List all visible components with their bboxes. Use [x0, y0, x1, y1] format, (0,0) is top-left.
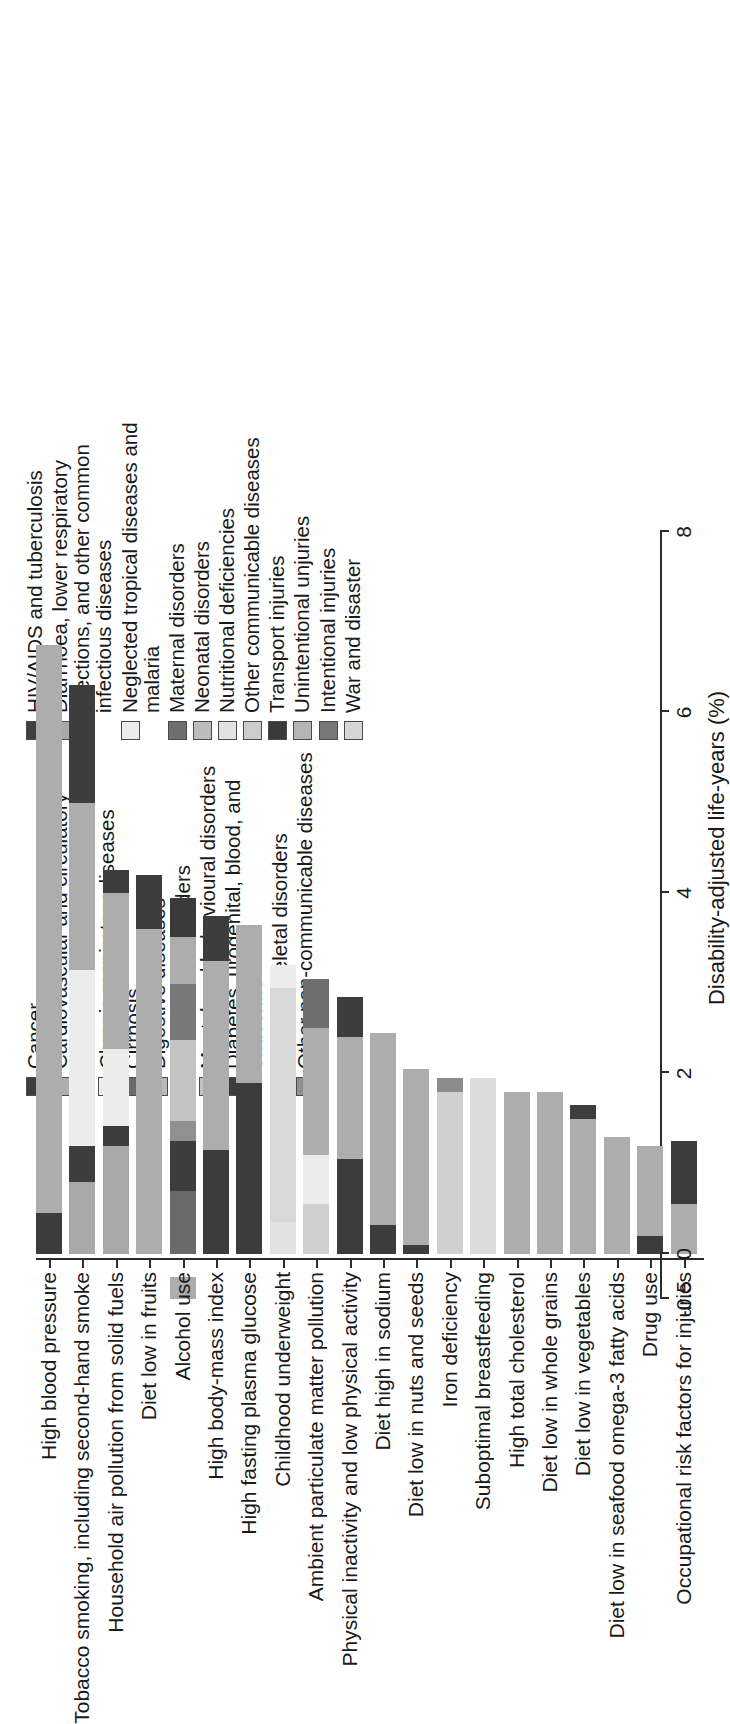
category-tick: [316, 1260, 318, 1268]
bar-segment: [303, 1155, 329, 1205]
bar-segment: [470, 1078, 496, 1254]
bar-segment: [203, 916, 229, 961]
bar-segment: [537, 1092, 563, 1254]
bar-segment: [303, 979, 329, 1029]
bar-segment: [370, 1225, 396, 1254]
bar-segment: [136, 875, 162, 929]
bar-segment: [570, 1119, 596, 1254]
category-label: Diet low in whole grains: [539, 1272, 560, 1493]
category-tick: [583, 1260, 585, 1268]
bar-segment: [403, 1069, 429, 1245]
bar-segment: [170, 937, 196, 984]
category-label: High body-mass index: [205, 1272, 226, 1480]
x-tick-label: 0: [672, 1248, 696, 1260]
category-label: Diet low in vegetables: [572, 1272, 593, 1476]
bar-segment: [236, 925, 262, 1083]
bar-segment: [170, 1040, 196, 1121]
bar-segment: [136, 929, 162, 1254]
x-tick: [660, 530, 669, 532]
bar-segment: [403, 1245, 429, 1254]
x-tick-label: 2: [672, 1068, 696, 1080]
bar-segment: [270, 965, 296, 988]
x-tick: [660, 711, 669, 713]
category-tick: [550, 1260, 552, 1268]
bar-segment: [303, 1204, 329, 1254]
category-tick: [82, 1260, 84, 1268]
bar-segment: [236, 1083, 262, 1254]
category-tick: [283, 1260, 285, 1268]
category-label: Drug use: [639, 1272, 660, 1357]
bar-segment: [671, 1141, 697, 1204]
x-tick: [660, 1297, 669, 1299]
category-label: Alcohol use: [172, 1272, 193, 1381]
bar-segment: [103, 1126, 129, 1146]
bar-segment: [504, 1092, 530, 1254]
x-tick-label: 6: [672, 707, 696, 719]
x-tick-label: -0.5: [672, 1281, 696, 1317]
category-label: Diet low in nuts and seeds: [405, 1272, 426, 1517]
category-label: Diet low in seafood omega-3 fatty acids: [606, 1272, 627, 1639]
x-tick: [660, 891, 669, 893]
bar-segment: [103, 1146, 129, 1254]
bar-segment: [170, 1121, 196, 1141]
category-tick: [49, 1260, 51, 1268]
bar-segment: [69, 970, 95, 1146]
bar-segment: [170, 898, 196, 938]
category-label: Diet high in sodium: [372, 1272, 393, 1451]
category-tick: [684, 1260, 686, 1268]
category-tick: [249, 1260, 251, 1268]
bar-segment: [337, 997, 363, 1038]
bar-segment: [671, 1204, 697, 1254]
category-label: High total cholesterol: [506, 1272, 527, 1468]
x-tick-label: 8: [672, 526, 696, 538]
category-label: High fasting plasma glucose: [238, 1272, 259, 1535]
x-tick: [660, 1072, 669, 1074]
bar-segment: [203, 961, 229, 1151]
bar-segment: [437, 1078, 463, 1092]
category-tick: [350, 1260, 352, 1268]
bar-segment: [36, 645, 62, 1214]
bar-segment: [69, 685, 95, 802]
category-tick: [216, 1260, 218, 1268]
x-axis-title: Disability-adjusted life-years (%): [704, 442, 730, 1254]
category-tick: [617, 1260, 619, 1268]
bar-segment: [270, 988, 296, 1223]
bar-segment: [637, 1146, 663, 1236]
bar-segment: [103, 1049, 129, 1126]
category-label: High blood pressure: [38, 1272, 59, 1460]
category-label: Iron deficiency: [439, 1272, 460, 1407]
x-tick: [660, 1252, 669, 1254]
category-tick: [450, 1260, 452, 1268]
category-tick: [517, 1260, 519, 1268]
bar-segment: [337, 1037, 363, 1159]
category-tick: [483, 1260, 485, 1268]
bar-segment: [103, 870, 129, 893]
category-tick: [116, 1260, 118, 1268]
bar-segment: [69, 1182, 95, 1254]
category-label: Occupational risk factors for injuries: [673, 1272, 694, 1605]
category-label: Childhood underweight: [272, 1272, 293, 1487]
category-label: Physical inactivity and low physical act…: [339, 1272, 360, 1667]
bar-segment: [270, 1222, 296, 1254]
bar-segment: [103, 893, 129, 1049]
category-label: Tobacco smoking, including second-hand s…: [71, 1272, 92, 1724]
bar-segment: [170, 984, 196, 1040]
category-label: Suboptimal breastfeeding: [472, 1272, 493, 1510]
bar-segment: [303, 1028, 329, 1154]
bar-segment: [170, 1141, 196, 1191]
bar-segment: [437, 1092, 463, 1254]
bar-segment: [69, 803, 95, 970]
bar-segment: [170, 1191, 196, 1254]
category-tick: [650, 1260, 652, 1268]
bar-segment: [604, 1137, 630, 1254]
category-label: Diet low in fruits: [138, 1272, 159, 1420]
category-tick: [183, 1260, 185, 1268]
category-tick: [149, 1260, 151, 1268]
category-label: Household air pollution from solid fuels: [105, 1272, 126, 1633]
category-tick: [416, 1260, 418, 1268]
bar-segment: [69, 1146, 95, 1182]
bar-segment: [203, 1150, 229, 1254]
bar-segment: [36, 1213, 62, 1254]
